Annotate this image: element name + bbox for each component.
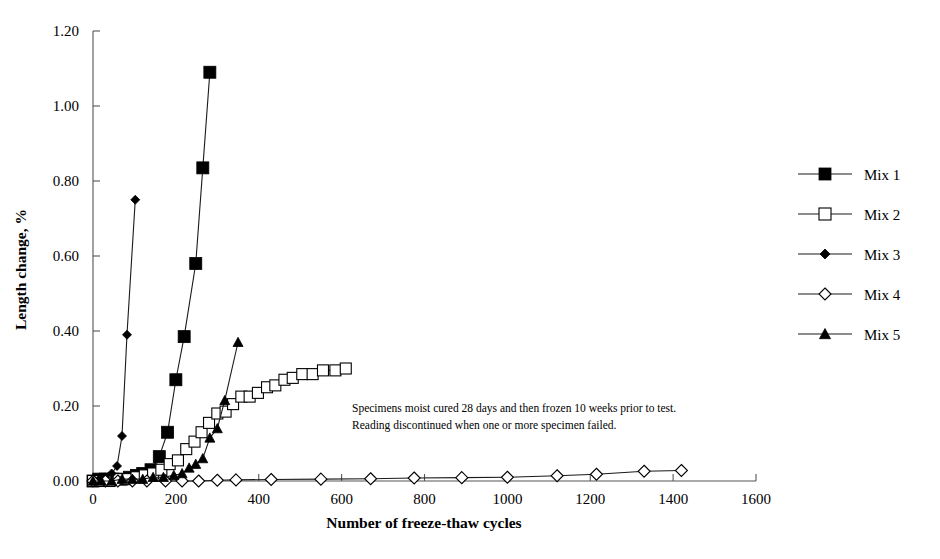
chart-legend: Mix 1Mix 2Mix 3Mix 4Mix 5 xyxy=(798,167,901,343)
x-tick-label: 800 xyxy=(413,491,436,507)
marker-filled-diamond xyxy=(131,195,140,204)
y-tick-label: 0.20 xyxy=(53,398,79,414)
marker-filled-square xyxy=(153,451,165,463)
x-tick-label: 600 xyxy=(330,491,353,507)
marker-filled-square xyxy=(819,168,831,180)
marker-filled-triangle xyxy=(233,337,243,346)
marker-open-diamond xyxy=(675,465,687,477)
y-axis-tick-labels: 0.000.200.400.600.801.001.20 xyxy=(53,23,79,489)
marker-open-diamond xyxy=(638,465,650,477)
x-axis: 02004006008001000120014001600 Number of … xyxy=(89,474,771,531)
x-tick-label: 0 xyxy=(89,491,97,507)
marker-open-square xyxy=(172,455,183,466)
marker-open-diamond xyxy=(230,474,242,486)
marker-open-diamond xyxy=(211,474,223,486)
annotation-line: Specimens moist cured 28 days and then f… xyxy=(352,402,676,415)
marker-filled-square xyxy=(197,162,209,174)
y-axis-title: Length change, % xyxy=(12,209,29,330)
marker-open-diamond xyxy=(315,473,327,485)
figure-container: 0.000.200.400.600.801.001.20 Length chan… xyxy=(0,0,940,559)
series-polyline xyxy=(93,369,346,482)
x-tick-label: 1600 xyxy=(741,491,771,507)
annotation-line: Reading discontinued when one or more sp… xyxy=(352,419,617,432)
y-axis: 0.000.200.400.600.801.001.20 Length chan… xyxy=(12,23,100,489)
x-tick-label: 1200 xyxy=(575,491,605,507)
marker-filled-diamond xyxy=(820,249,830,259)
marker-filled-square xyxy=(204,66,216,78)
marker-filled-diamond xyxy=(118,432,127,441)
marker-open-diamond xyxy=(365,473,377,485)
legend-item-label: Mix 5 xyxy=(864,327,900,343)
marker-open-diamond xyxy=(819,288,831,300)
marker-open-diamond xyxy=(193,475,205,487)
marker-filled-square xyxy=(190,258,202,270)
marker-open-square xyxy=(307,369,318,380)
x-tick-label: 1000 xyxy=(492,491,522,507)
marker-filled-diamond xyxy=(113,462,122,471)
marker-open-square xyxy=(819,208,831,220)
marker-filled-diamond xyxy=(122,330,131,339)
legend-item-mix-2[interactable]: Mix 2 xyxy=(798,207,900,223)
legend-item-label: Mix 1 xyxy=(864,167,900,183)
marker-filled-triangle xyxy=(198,454,208,463)
legend-item-label: Mix 2 xyxy=(864,207,900,223)
y-tick-label: 1.00 xyxy=(53,98,79,114)
marker-filled-square xyxy=(170,374,182,386)
x-tick-label: 200 xyxy=(165,491,188,507)
marker-filled-square xyxy=(162,426,174,438)
x-axis-title: Number of freeze-thaw cycles xyxy=(326,514,521,531)
y-tick-label: 1.20 xyxy=(53,23,79,39)
y-axis-ticks xyxy=(93,31,100,481)
marker-open-diamond xyxy=(590,468,602,480)
marker-open-diamond xyxy=(408,472,420,484)
legend-item-mix-5[interactable]: Mix 5 xyxy=(798,327,900,343)
x-tick-label: 1400 xyxy=(658,491,688,507)
legend-item-mix-1[interactable]: Mix 1 xyxy=(798,167,900,183)
y-tick-label: 0.80 xyxy=(53,173,79,189)
legend-item-label: Mix 4 xyxy=(864,287,901,303)
marker-open-square xyxy=(317,365,328,376)
marker-open-diamond xyxy=(265,474,277,486)
series-polyline xyxy=(93,72,210,481)
legend-item-label: Mix 3 xyxy=(864,247,900,263)
marker-filled-square xyxy=(178,331,190,343)
y-tick-label: 0.00 xyxy=(53,473,79,489)
x-axis-tick-labels: 02004006008001000120014001600 xyxy=(89,491,771,507)
marker-open-diamond xyxy=(551,470,563,482)
freeze-thaw-length-change-chart: 0.000.200.400.600.801.001.20 Length chan… xyxy=(0,0,940,559)
chart-annotations: Specimens moist cured 28 days and then f… xyxy=(352,402,676,432)
y-tick-label: 0.60 xyxy=(53,248,79,264)
series-polyline xyxy=(93,200,135,481)
x-tick-label: 400 xyxy=(248,491,271,507)
legend-item-mix-4[interactable]: Mix 4 xyxy=(798,287,901,303)
marker-open-square xyxy=(330,365,341,376)
marker-open-square xyxy=(297,369,308,380)
series-mix-2 xyxy=(88,363,352,487)
legend-item-mix-3[interactable]: Mix 3 xyxy=(798,247,900,263)
series-mix-1 xyxy=(87,66,216,487)
series-mix-3 xyxy=(89,195,140,485)
marker-open-diamond xyxy=(456,472,468,484)
marker-open-square xyxy=(340,363,351,374)
y-tick-label: 0.40 xyxy=(53,323,79,339)
